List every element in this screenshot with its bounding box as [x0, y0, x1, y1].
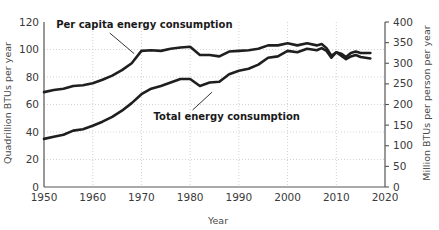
y2-tick-label: 300 — [393, 57, 413, 69]
y2-tick-label: 200 — [393, 98, 413, 110]
x-tick-label: 1960 — [79, 191, 106, 203]
y2-tick-label: 400 — [393, 16, 413, 28]
x-tick-label: 1970 — [128, 191, 155, 203]
annotation-label: Total energy consumption — [154, 111, 300, 122]
y-tick-label: 40 — [26, 126, 39, 138]
y-tick-label: 0 — [32, 181, 39, 193]
y-axis-title: Quadrillion BTUs per year — [2, 42, 13, 164]
x-tick-label: 2020 — [372, 191, 399, 203]
x-axis-title: Year — [207, 215, 228, 226]
y-tick-label: 80 — [26, 71, 39, 83]
y2-tick-label: 100 — [393, 139, 413, 151]
y-tick-label: 100 — [19, 43, 39, 55]
energy-consumption-chart: 19501960197019801990200020102020 0204060… — [0, 0, 439, 230]
x-tick-label: 1990 — [225, 191, 252, 203]
y2-tick-label: 50 — [393, 160, 406, 172]
y2-tick-label: 350 — [393, 36, 413, 48]
x-tick-label: 2010 — [323, 191, 350, 203]
y2-tick-label: 250 — [393, 77, 413, 89]
x-tick-label: 2000 — [274, 191, 301, 203]
annotation-label: Per capita energy consumption — [56, 19, 232, 30]
chart-canvas: 19501960197019801990200020102020 0204060… — [0, 0, 439, 230]
y2-tick-label: 0 — [393, 181, 400, 193]
y-tick-label: 120 — [19, 16, 39, 28]
y2-axis-title: Million BTUs per person per year — [421, 25, 432, 180]
x-tick-label: 1950 — [31, 191, 58, 203]
x-tick-label: 1980 — [177, 191, 204, 203]
y-tick-label: 20 — [26, 153, 39, 165]
y-tick-label: 60 — [26, 98, 39, 110]
y2-tick-label: 150 — [393, 119, 413, 131]
